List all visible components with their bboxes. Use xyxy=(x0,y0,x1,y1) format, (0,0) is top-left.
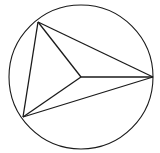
geometry-diagram xyxy=(0,0,160,153)
triangle-side-ab xyxy=(23,22,38,117)
segment-center-to-a xyxy=(38,22,81,77)
segment-center-to-b xyxy=(23,77,81,117)
triangle-side-bc xyxy=(23,77,153,117)
